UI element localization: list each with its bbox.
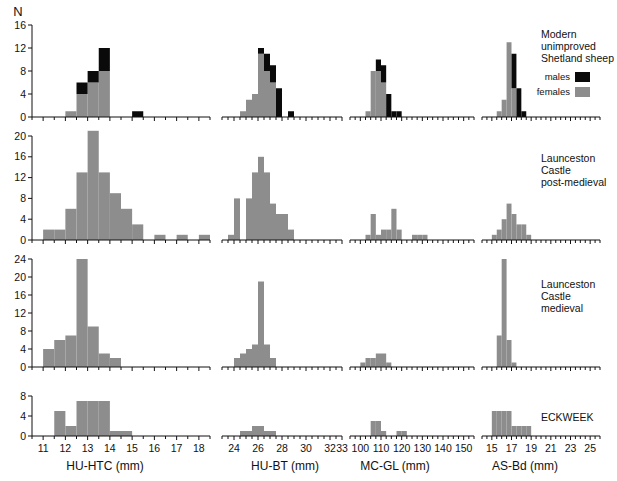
bar-females — [516, 426, 521, 436]
row-label-4: ECKWEEK — [541, 411, 594, 423]
bar-females — [110, 431, 121, 436]
bar-females — [371, 214, 376, 240]
x-tick-label: 14 — [104, 442, 116, 454]
panel-3-4 — [482, 259, 600, 371]
y-tick-label: 8 — [20, 325, 26, 337]
y-axis-label: N — [13, 4, 22, 19]
bar-females — [252, 426, 258, 436]
plot-canvas: 0481216048121620048121620241112131415161… — [0, 0, 617, 481]
bar-females — [376, 71, 381, 117]
bar-females — [497, 336, 502, 368]
bar-females — [381, 354, 386, 368]
y-tick-label: 12 — [14, 171, 26, 183]
bar-females — [54, 230, 65, 240]
x-tick-label: 23 — [565, 442, 577, 454]
bar-females — [43, 230, 54, 240]
y-tick-label: 16 — [14, 19, 26, 31]
y-tick-label: 20 — [14, 271, 26, 283]
bar-females — [422, 235, 427, 240]
row-label-2: post-medieval — [541, 176, 606, 188]
y-tick-label: 8 — [20, 390, 26, 402]
bar-females — [397, 431, 402, 436]
row-label-2: Castle — [541, 164, 571, 176]
bar-males — [88, 71, 99, 83]
y-tick-label: 16 — [14, 150, 26, 162]
bar-females — [99, 172, 110, 240]
y-tick-label: 24 — [14, 253, 26, 265]
column-axis-title-4: AS-Bd (mm) — [492, 459, 558, 473]
bar-males — [386, 94, 391, 117]
bar-females — [246, 100, 252, 117]
bar-females — [397, 230, 402, 240]
panel-3-2 — [222, 282, 342, 372]
bar-females — [88, 401, 99, 436]
bar-females — [497, 230, 502, 240]
bar-females — [371, 421, 376, 436]
bar-females — [65, 426, 76, 436]
legend-males-label: males — [545, 71, 571, 82]
bar-females — [526, 426, 531, 436]
x-tick-label: 15 — [126, 442, 138, 454]
y-tick-label: 4 — [20, 343, 26, 355]
bar-females — [264, 172, 270, 240]
bar-females — [65, 209, 76, 240]
y-tick-label: 0 — [20, 430, 26, 442]
x-tick-label: 110 — [373, 442, 390, 454]
bar-females — [502, 100, 507, 117]
x-tick-label: 21 — [545, 442, 557, 454]
bar-females — [110, 193, 121, 240]
y-tick-label: 20 — [14, 130, 26, 142]
x-tick-label: 130 — [414, 442, 432, 454]
bar-females — [502, 411, 507, 436]
row-label-2: Launceston — [541, 152, 595, 164]
bar-females — [386, 363, 391, 368]
bar-females — [121, 209, 132, 240]
bar-females — [270, 83, 276, 118]
legend-females-swatch — [575, 87, 590, 97]
bar-females — [228, 235, 234, 240]
bar-females — [497, 411, 502, 436]
bar-females — [366, 235, 371, 240]
bar-females — [65, 111, 76, 117]
x-tick-label: 18 — [193, 442, 205, 454]
bar-females — [507, 411, 512, 436]
bar-males — [397, 111, 402, 117]
x-tick-label: 150 — [455, 442, 473, 454]
x-tick-label: 24 — [228, 442, 240, 454]
bar-females — [88, 131, 99, 240]
bar-females — [512, 88, 517, 117]
bar-females — [376, 421, 381, 436]
bar-females — [264, 71, 270, 117]
panel-2-2 — [222, 157, 342, 244]
panel-2-1: 048121620 — [14, 130, 210, 246]
panel-3-1: 04812162024 — [14, 253, 210, 373]
bar-females — [234, 358, 240, 367]
bar-females — [371, 71, 376, 117]
bar-females — [132, 224, 143, 240]
bar-females — [154, 235, 165, 240]
bar-females — [77, 172, 88, 240]
row-label-3: Launceston — [541, 278, 595, 290]
bar-males — [264, 54, 270, 71]
panel-4-3: 100110120130140150 — [350, 421, 474, 454]
row-label-1: unimproved — [541, 40, 596, 52]
bar-females — [99, 401, 110, 436]
bar-females — [521, 224, 526, 240]
bar-males — [258, 48, 264, 54]
bar-females — [264, 345, 270, 368]
x-tick-label: 25 — [584, 442, 596, 454]
bar-females — [199, 235, 210, 240]
y-tick-label: 8 — [20, 65, 26, 77]
x-tick-label: 120 — [393, 442, 411, 454]
bar-females — [258, 54, 264, 117]
bar-females — [240, 431, 246, 436]
bar-females — [240, 354, 246, 368]
bar-females — [521, 426, 526, 436]
bar-females — [512, 426, 517, 436]
bar-females — [381, 83, 386, 118]
bar-males — [99, 48, 110, 71]
row-label-1: Modern — [541, 28, 577, 40]
panel-1-2 — [222, 48, 342, 121]
bar-females — [502, 219, 507, 240]
legend-females-label: females — [537, 86, 571, 97]
